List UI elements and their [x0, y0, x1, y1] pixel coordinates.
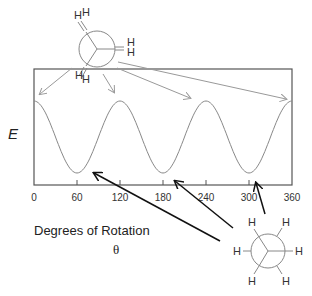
x-axis-label: Degrees of Rotation: [34, 223, 150, 238]
energy-diagram: 060120180240300360 E Degrees of Rotation…: [0, 0, 312, 296]
theta-symbol: θ: [113, 242, 119, 257]
svg-text:H: H: [82, 73, 90, 85]
svg-text:H: H: [282, 275, 290, 287]
energy-curve: [34, 101, 292, 173]
svg-text:H: H: [233, 245, 241, 257]
svg-text:H: H: [248, 275, 256, 287]
svg-text:H: H: [74, 9, 82, 21]
x-tick-label: 60: [71, 192, 83, 203]
svg-text:H: H: [82, 6, 90, 18]
svg-text:H: H: [295, 245, 303, 257]
x-tick-label: 360: [284, 192, 301, 203]
svg-text:H: H: [248, 216, 256, 228]
eclipsed-newman-projection: H H H H H H: [74, 6, 135, 85]
staggered-newman-projection: H H H H H H: [233, 216, 303, 287]
x-tick-label: 300: [241, 192, 258, 203]
x-tick-label: 120: [112, 192, 129, 203]
x-tick-label: 0: [31, 192, 37, 203]
y-axis-label: E: [8, 125, 19, 142]
svg-text:H: H: [282, 216, 290, 228]
x-tick-label: 180: [155, 192, 172, 203]
svg-text:H: H: [127, 46, 135, 58]
